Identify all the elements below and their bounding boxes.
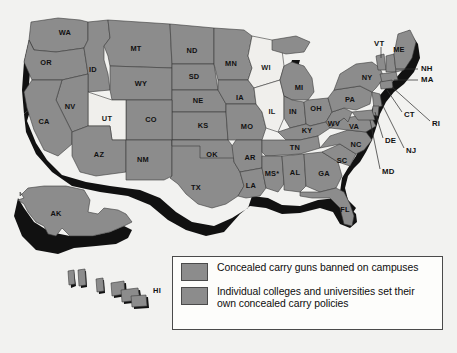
state-label-KS: KS [198,121,209,130]
state-label-IA: IA [236,93,244,102]
state-label-TN: TN [290,143,300,152]
state-label-OK: OK [206,150,218,159]
state-label-AR: AR [244,153,256,162]
state-label-IL: IL [269,107,276,116]
state-label-AL: AL [290,168,301,177]
state-label-OH: OH [310,104,322,113]
state-label-UT: UT [102,114,113,123]
state-label-VA: VA [349,122,360,131]
callout-label-NH: NH [421,64,433,73]
state-label-MT: MT [130,44,141,53]
callout-label-MD: MD [382,167,395,176]
state-label-MN: MN [225,59,237,68]
state-label-LA: LA [246,181,257,190]
state-label-SD: SD [189,72,200,81]
state-label-ND: ND [186,46,198,55]
state-label-CO: CO [145,115,157,124]
state-label-SC: SC [337,156,348,165]
state-label-MI: MI [295,83,304,92]
state-label-WI: WI [261,63,270,72]
legend-swatch-institution-choice [181,287,208,305]
legend-swatch-banned [181,263,208,281]
state-MN [214,28,252,80]
callout-label-NJ: NJ [406,146,416,155]
state-label-ID: ID [89,65,97,74]
state-label-MS: MS* [265,169,280,178]
state-NM [126,140,172,180]
state-label-NC: NC [350,140,362,149]
state-label-GA: GA [318,169,330,178]
state-label-KY: KY [302,126,313,135]
state-label-WY: WY [135,79,147,88]
state-label-MO: MO [241,122,253,131]
state-label-ME: ME [393,45,405,54]
state-label-TX: TX [191,183,201,192]
state-label-WV: WV [328,119,340,128]
legend-label-banned: Concealed carry guns banned on campuses [217,262,418,274]
state-label-AK: AK [50,209,62,218]
state-label-WA: WA [59,28,72,37]
state-ND [170,24,214,64]
callout-label-CT: CT [404,110,415,119]
state-label-FL: FL [340,205,350,214]
state-label-IN: IN [289,107,297,116]
legend-entry-banned: Concealed carry guns banned on campuses [173,257,442,283]
legend-entry-institution-choice: Individual colleges and universities set… [173,283,442,311]
legend-label-institution-choice: Individual colleges and universities set… [217,286,436,309]
state-label-PA: PA [345,95,356,104]
state-label-NM: NM [137,155,149,164]
callout-label-MA: MA [421,75,434,84]
state-label-NV: NV [65,102,76,111]
state-label-HI: HI [153,286,161,295]
state-label-AZ: AZ [94,150,105,159]
callout-label-RI: RI [432,119,440,128]
state-label-CA: CA [38,117,50,126]
state-label-OR: OR [40,58,52,67]
map-legend: Concealed carry guns banned on campuses … [172,256,443,330]
callout-label-VT: VT [374,39,384,48]
state-label-NY: NY [362,73,373,82]
callout-label-DE: DE [385,136,396,145]
state-label-NE: NE [193,96,204,105]
